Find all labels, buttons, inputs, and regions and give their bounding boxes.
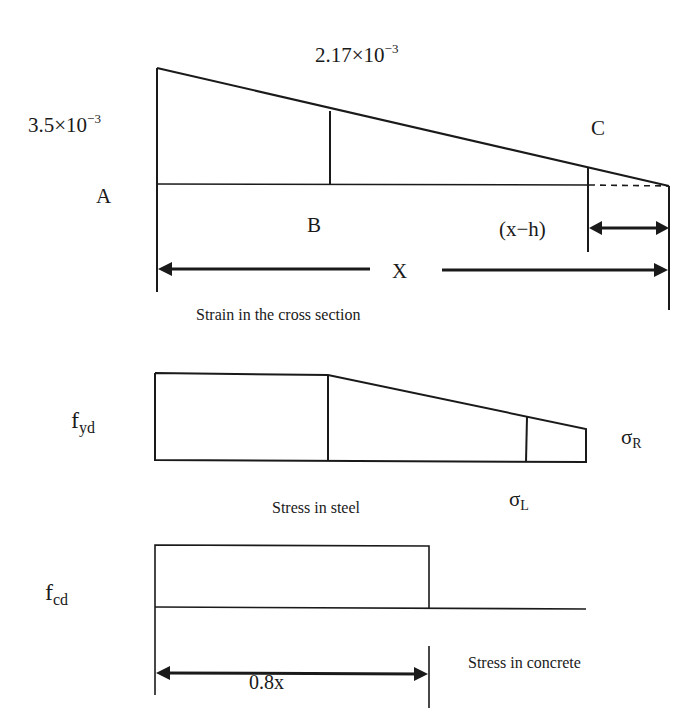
- arrowhead-right: [414, 667, 428, 681]
- point-C-label: C: [591, 116, 605, 140]
- tension-zone-label: (x−h): [499, 217, 546, 241]
- steel-stress-diagram: fyd σL σR Stress in steel: [71, 373, 642, 516]
- concrete-baseline: [155, 607, 586, 609]
- arrowhead-left: [158, 262, 172, 276]
- arrowhead-right: [656, 221, 669, 235]
- steel-caption: Stress in steel: [272, 499, 361, 516]
- arrowhead-left: [589, 221, 602, 235]
- strain-caption: Strain in the cross section: [196, 306, 360, 323]
- sigma-L-line: [526, 417, 527, 462]
- fyd-label: fyd: [71, 407, 95, 437]
- steel-stress-outline: [155, 373, 586, 462]
- concrete-stress-block: [155, 545, 429, 608]
- sigma-R-label: σR: [621, 425, 642, 451]
- top-strain-label: 3.5×10−3: [28, 111, 101, 137]
- point-B-strain-label: 2.17×10−3: [315, 41, 398, 67]
- block-depth-label: 0.8x: [249, 671, 284, 693]
- tension-zone-dashed-line: [589, 185, 669, 186]
- point-B-label: B: [307, 213, 321, 237]
- fcd-label: fcd: [45, 579, 68, 608]
- concrete-caption: Stress in concrete: [468, 654, 581, 671]
- arrowhead-left: [156, 666, 170, 680]
- stress-strain-diagram: 3.5×10−3 2.17×10−3 A B C (x−h) X Strain …: [0, 0, 696, 725]
- strain-diagram: 3.5×10−3 2.17×10−3 A B C (x−h) X Strain …: [28, 41, 669, 323]
- strain-baseline: [157, 184, 588, 185]
- point-A-label: A: [96, 184, 112, 208]
- arrowhead-right: [654, 263, 668, 277]
- concrete-stress-diagram: fcd 0.8x Stress in concrete: [45, 545, 586, 708]
- sigma-L-label: σL: [509, 487, 529, 513]
- neutral-axis-depth-label: X: [392, 259, 407, 283]
- block-depth-arrow: [164, 673, 420, 674]
